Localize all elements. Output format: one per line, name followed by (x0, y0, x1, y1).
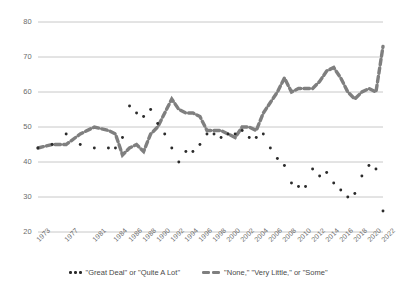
y-tick-label: 30 (10, 192, 32, 201)
data-point-great-deal (248, 136, 251, 139)
data-point-great-deal (339, 189, 342, 192)
data-point-great-deal (304, 185, 307, 188)
data-point-great-deal (177, 161, 180, 164)
data-point-great-deal (107, 147, 110, 150)
data-point-great-deal (135, 112, 138, 115)
data-point-great-deal (220, 136, 223, 139)
data-point-great-deal (128, 105, 131, 108)
data-point-great-deal (163, 133, 166, 136)
chart-plot-area (0, 0, 397, 299)
data-point-great-deal (325, 171, 328, 174)
data-point-great-deal (234, 133, 237, 136)
data-point-great-deal (170, 147, 173, 150)
data-point-great-deal (269, 147, 272, 150)
data-point-great-deal (65, 133, 68, 136)
data-point-great-deal (156, 122, 159, 125)
legend-label-none-very-little-some: "None," "Very Little," or "Some" (224, 268, 328, 277)
data-point-great-deal (367, 164, 370, 167)
y-tick-label: 70 (10, 52, 32, 61)
data-point-great-deal (290, 182, 293, 185)
data-point-great-deal (227, 133, 230, 136)
data-point-great-deal (283, 164, 286, 167)
data-point-great-deal (93, 147, 96, 150)
data-point-great-deal (375, 168, 378, 171)
legend-label-great-deal: "Great Deal" or "Quite A Lot" (86, 268, 180, 277)
y-tick-label: 80 (10, 17, 32, 26)
data-point-great-deal (318, 175, 321, 178)
data-point-great-deal (311, 168, 314, 171)
data-point-great-deal (353, 192, 356, 195)
data-point-great-deal (149, 108, 152, 111)
data-point-great-deal (213, 133, 216, 136)
chart-container: 80706050403020 1973197719811984198619881… (0, 0, 397, 299)
data-point-great-deal (114, 147, 117, 150)
data-point-great-deal (142, 115, 145, 118)
data-point-great-deal (79, 143, 82, 146)
y-tick-label: 20 (10, 227, 32, 236)
data-point-great-deal (255, 136, 258, 139)
y-tick-label: 40 (10, 157, 32, 166)
data-point-great-deal (184, 150, 187, 153)
data-point-great-deal (360, 175, 363, 178)
legend-item-great-deal: "Great Deal" or "Quite A Lot" (69, 268, 180, 277)
data-point-great-deal (241, 129, 244, 132)
dotted-marker-icon (69, 271, 81, 273)
data-point-great-deal (206, 133, 209, 136)
y-tick-label: 50 (10, 122, 32, 131)
data-point-great-deal (121, 136, 124, 139)
data-point-great-deal (198, 143, 201, 146)
data-point-great-deal (332, 182, 335, 185)
data-point-great-deal (297, 185, 300, 188)
data-point-great-deal (51, 143, 54, 146)
data-point-great-deal (191, 150, 194, 153)
chart-legend: "Great Deal" or "Quite A Lot" "None," "V… (0, 268, 397, 277)
data-point-great-deal (346, 196, 349, 199)
series-line-none-very-little-some (38, 47, 383, 156)
data-point-great-deal (276, 157, 279, 160)
data-point-great-deal (382, 210, 385, 213)
y-tick-label: 60 (10, 87, 32, 96)
data-point-great-deal (262, 133, 265, 136)
data-point-great-deal (37, 147, 40, 150)
legend-item-none-very-little-some: "None," "Very Little," or "Some" (202, 268, 328, 277)
dashed-marker-icon (202, 271, 220, 274)
